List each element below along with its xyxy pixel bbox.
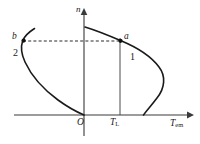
point-b-dot [22,39,26,43]
curve-one-label: 1 [130,52,135,62]
x-axis-arrowhead [187,112,194,119]
speed-torque-figure: n b a 2 1 O TL Tem [0,0,200,144]
y-axis-arrowhead [81,8,88,15]
point-a-dot [118,39,122,43]
point-b-label: b [12,32,17,42]
origin-label: O [77,118,84,128]
curve-two-label: 2 [13,48,18,58]
y-axis-label: n [76,5,81,14]
x-axis-label-subscript: em [175,121,183,128]
load-torque-label: TL [110,118,119,128]
point-a-label: a [124,32,129,42]
load-torque-label-subscript: L [115,120,119,127]
x-axis-label: Tem [170,119,183,129]
